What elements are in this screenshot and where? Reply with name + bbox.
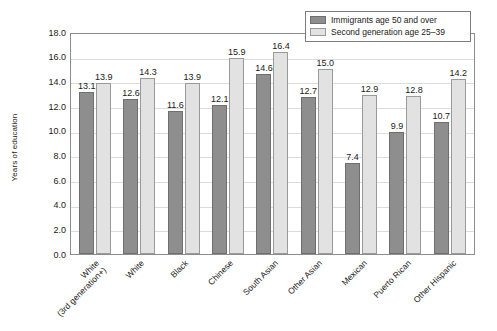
bar-value-label: 12.8 xyxy=(405,85,423,95)
legend-swatch-second-generation xyxy=(310,28,326,36)
bar-value-label: 11.6 xyxy=(167,100,184,110)
x-axis-tick-line: Other Asian xyxy=(286,258,324,296)
y-axis-tick: 6.0 xyxy=(22,177,66,186)
bar-value-label: 13.9 xyxy=(95,72,113,82)
bar-group: 11.613.9 xyxy=(162,34,206,254)
bar: 13.9 xyxy=(185,83,200,254)
bar: 12.6 xyxy=(123,99,138,254)
x-axis-tick-line: South Asian xyxy=(240,258,279,297)
x-axis-tick-line: Black xyxy=(169,258,191,280)
legend-label-second-generation: Second generation age 25–39 xyxy=(331,27,445,37)
x-axis-tick-line: Chinese xyxy=(206,258,235,287)
x-axis-tick-line: Mexican xyxy=(339,258,368,287)
x-axis-tick-labels: White(3rd generation+)WhiteBlackChineseS… xyxy=(70,256,475,331)
bar-value-label: 16.4 xyxy=(272,41,290,51)
bar-value-label: 10.7 xyxy=(433,111,451,121)
chart-legend: Immigrants age 50 and over Second genera… xyxy=(305,11,471,42)
bar: 16.4 xyxy=(273,52,288,254)
bar-value-label: 14.3 xyxy=(139,67,157,77)
y-axis-tick-labels: 0.02.04.06.08.010.012.014.016.018.0 xyxy=(22,33,66,255)
bar-group: 10.714.2 xyxy=(428,34,472,254)
x-axis-tick-line: White xyxy=(123,258,145,280)
bar-value-label: 9.9 xyxy=(391,121,404,131)
y-axis-tick: 14.0 xyxy=(22,78,66,87)
bar-value-label: 14.2 xyxy=(450,68,468,78)
bar: 13.9 xyxy=(96,83,111,254)
bar-group: 12.715.0 xyxy=(295,34,339,254)
bar-value-label: 13.9 xyxy=(184,72,202,82)
bar-groups: 13.113.912.614.311.613.912.115.914.616.4… xyxy=(71,34,474,254)
bar-group: 7.412.9 xyxy=(339,34,383,254)
bar-value-label: 13.1 xyxy=(78,81,96,91)
x-axis-tick-line: (3rd generation+) xyxy=(0,265,108,331)
legend-label-immigrants: Immigrants age 50 and over xyxy=(331,15,437,25)
bar: 12.9 xyxy=(362,95,377,254)
bar-value-label: 12.7 xyxy=(300,86,318,96)
legend-item-second-generation: Second generation age 25–39 xyxy=(310,26,466,38)
bar-value-label: 7.4 xyxy=(346,152,359,162)
bar-group: 13.113.9 xyxy=(73,34,117,254)
y-axis-tick: 10.0 xyxy=(22,127,66,136)
bar: 14.2 xyxy=(451,79,466,254)
y-axis-tick: 4.0 xyxy=(22,201,66,210)
bar-value-label: 14.6 xyxy=(255,63,273,73)
y-axis-title: Years of education xyxy=(10,88,19,208)
bar: 15.0 xyxy=(318,69,333,254)
bar-chart-figure: Years of education 0.02.04.06.08.010.012… xyxy=(0,0,497,331)
bar: 14.3 xyxy=(140,78,155,254)
y-axis-tick: 12.0 xyxy=(22,103,66,112)
bar-value-label: 12.6 xyxy=(122,88,140,98)
x-axis-tick-line: Puerto Rican xyxy=(371,258,413,300)
bar: 14.6 xyxy=(256,74,271,254)
bar-group: 14.616.4 xyxy=(250,34,294,254)
x-axis-tick: White(3rd generation+) xyxy=(0,258,108,331)
bar-value-label: 12.1 xyxy=(211,94,229,104)
plot-area: 13.113.912.614.311.613.912.115.914.616.4… xyxy=(70,33,475,255)
y-axis-tick: 2.0 xyxy=(22,226,66,235)
bar: 12.7 xyxy=(301,97,316,254)
bar-group: 9.912.8 xyxy=(383,34,427,254)
bar-group: 12.115.9 xyxy=(206,34,250,254)
y-axis-tick: 18.0 xyxy=(22,29,66,38)
bar: 12.8 xyxy=(406,96,421,254)
bar: 7.4 xyxy=(345,163,360,254)
legend-item-immigrants: Immigrants age 50 and over xyxy=(310,14,466,26)
bar: 10.7 xyxy=(434,122,449,254)
y-axis-tick: 8.0 xyxy=(22,152,66,161)
legend-swatch-immigrants xyxy=(310,16,326,24)
bar-value-label: 12.9 xyxy=(361,84,379,94)
y-axis-tick: 16.0 xyxy=(22,53,66,62)
bar: 11.6 xyxy=(168,111,183,254)
bar: 9.9 xyxy=(389,132,404,254)
bar-value-label: 15.0 xyxy=(317,58,335,68)
bar: 13.1 xyxy=(79,92,94,254)
bar-value-label: 15.9 xyxy=(228,47,246,57)
bar: 12.1 xyxy=(212,105,227,254)
x-axis-tick-line: Other Hispanic xyxy=(411,258,458,305)
bar-group: 12.614.3 xyxy=(117,34,161,254)
bar: 15.9 xyxy=(229,58,244,254)
y-axis-tick: 0.0 xyxy=(22,251,66,260)
